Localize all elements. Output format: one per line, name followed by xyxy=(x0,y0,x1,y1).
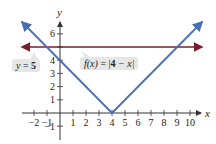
y-tick-label: 4 xyxy=(50,55,55,66)
y5-label-eq: = xyxy=(20,60,31,71)
x-tick-label: −2 xyxy=(29,117,40,128)
y5-label-val: 5 xyxy=(31,60,36,71)
y-tick-label: −1 xyxy=(44,121,55,132)
graph: −2−112345678910 x −112346 y xyxy=(0,0,216,144)
y5-label-callout: y = 5 xyxy=(12,59,40,72)
x-tick-label: 2 xyxy=(84,117,89,128)
y-tick-label: 2 xyxy=(50,81,55,92)
y-tick-label: 1 xyxy=(50,94,55,105)
x-tick-label: 1 xyxy=(71,117,76,128)
y-tick-label: 6 xyxy=(50,28,55,39)
x-tick-label: 10 xyxy=(185,117,195,128)
y-axis-label: y xyxy=(56,6,62,18)
x-tick-label: 3 xyxy=(97,117,102,128)
y-tick-label: 3 xyxy=(50,68,55,79)
x-tick-label: 6 xyxy=(136,117,141,128)
x-axis-label: x xyxy=(204,107,210,119)
y5-callout-pointer xyxy=(30,52,38,59)
x-tick-label: 9 xyxy=(175,117,180,128)
x-tick-label: 4 xyxy=(110,117,115,128)
x-tick-label: 8 xyxy=(162,117,167,128)
y-axis: −112346 y xyxy=(44,6,63,140)
x-tick-label: 7 xyxy=(149,117,154,128)
f-label-callout: f(x) = |4 − x| xyxy=(80,57,138,70)
f-label-eq: = | xyxy=(98,58,111,69)
f-label-arg: (x) xyxy=(87,58,98,69)
f-label-rest: − x| xyxy=(116,58,135,69)
x-tick-label: 5 xyxy=(123,117,128,128)
